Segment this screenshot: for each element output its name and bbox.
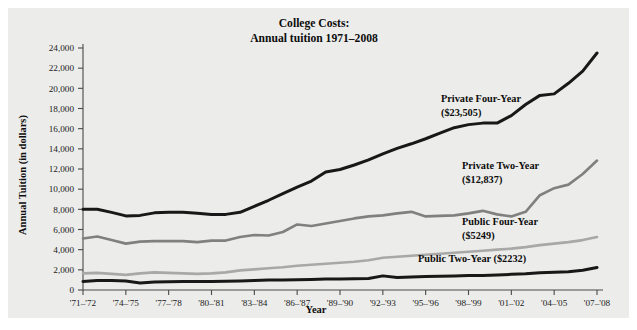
series-label-private-four-year: Private Four-Year [441,93,521,104]
y-axis-tick-label: 20,000 [49,84,75,94]
y-axis-tick-label: 6,000 [53,225,74,235]
y-axis-tick-label: 12,000 [49,164,75,174]
series-value-public-four-year: ($5249) [462,230,495,242]
series-label-private-two-year: Private Two-Year [462,160,540,171]
y-axis-tick-label: 8,000 [53,205,74,215]
figure-root: College Costs: Annual tuition 1971–2008 … [0,0,637,330]
x-axis-tick-label: '71–'72 [70,298,97,308]
series-line-public-two-year [83,267,597,282]
x-axis: '71–'72'74–'75'77–'78'80–'81'83–'84'86–'… [70,290,611,308]
y-axis-tick-label: 22,000 [49,63,75,73]
x-axis-tick-label: '80–'81 [198,298,225,308]
x-axis-tick-label: '07–'08 [584,298,611,308]
x-axis-tick-label: '95–'96 [413,298,440,308]
x-axis-tick-label: '01–'02 [498,298,525,308]
x-axis-tick-label: '74–'75 [113,298,140,308]
x-axis-tick-label: '04–'05 [541,298,568,308]
series-line-private-four-year [83,53,597,216]
y-axis-tick-label: 18,000 [49,104,75,114]
series-annotations: Private Four-Year($23,505)Private Two-Ye… [418,93,540,265]
y-axis-tick-label: 14,000 [49,144,75,154]
y-axis-tick-label: 0 [69,285,74,295]
x-axis-tick-label: '77–'78 [156,298,183,308]
series-label-public-two-year: Public Two-Year ($2232) [418,253,526,265]
y-axis-tick-label: 2,000 [53,265,74,275]
chart-title: College Costs: [279,17,350,30]
y-axis: 02,0004,0006,0008,00010,00012,00014,0001… [49,43,83,295]
series-value-private-four-year: ($23,505) [441,107,481,119]
y-axis-title: Annual Tuition (in dollars) [17,115,29,235]
x-axis-tick-label: '92–'93 [370,298,397,308]
x-axis-tick-label: '98–'99 [455,298,482,308]
series-line-private-two-year [83,161,597,244]
y-axis-tick-label: 16,000 [49,124,75,134]
y-axis-tick-label: 10,000 [49,184,75,194]
series-value-private-two-year: ($12,837) [462,174,502,186]
college-costs-line-chart: College Costs: Annual tuition 1971–2008 … [0,0,637,330]
title-block: College Costs: Annual tuition 1971–2008 [250,17,378,45]
x-axis-tick-label: '89–'90 [327,298,354,308]
y-axis-tick-label: 4,000 [53,245,74,255]
series-label-public-four-year: Public Four-Year [462,216,538,227]
x-axis-tick-label: '83–'84 [241,298,268,308]
x-axis-title: Year [306,304,327,315]
chart-subtitle: Annual tuition 1971–2008 [250,32,378,45]
y-axis-tick-label: 24,000 [49,43,75,53]
